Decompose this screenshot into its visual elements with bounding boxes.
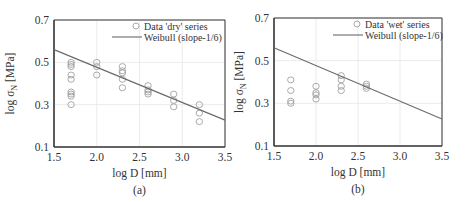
- chart-panel-a: 1.52.02.53.03.50.10.30.50.7log D [mm]log…: [0, 0, 233, 202]
- chart-panel-b: 1.52.02.53.03.50.10.30.50.7log D [mm]log…: [233, 0, 466, 202]
- x-tick-label: 3.0: [393, 150, 408, 162]
- legend-circle-icon: [354, 21, 360, 27]
- y-tick-label: 0.1: [35, 141, 50, 153]
- scatter-chart-dry: 1.52.02.53.03.50.10.30.50.7log D [mm]log…: [0, 0, 233, 202]
- x-tick-label: 3.0: [175, 151, 190, 163]
- y-tick-label: 0.5: [35, 56, 50, 68]
- legend-label-weibull: Weibull (slope-1/6): [365, 30, 443, 42]
- legend: Data 'wet' seriesWeibull (slope-1/6): [333, 19, 443, 42]
- x-tick-label: 2.0: [309, 150, 324, 162]
- y-tick-label: 0.3: [255, 97, 270, 109]
- x-tick-label: 2.5: [351, 150, 366, 162]
- x-tick-label: 1.5: [47, 151, 62, 163]
- panel-label: (b): [351, 183, 365, 196]
- data-point-circle: [338, 88, 344, 94]
- data-point-circle: [288, 77, 294, 83]
- legend-circle-icon: [133, 23, 139, 29]
- y-tick-label: 0.7: [255, 12, 270, 24]
- x-tick-label: 3.5: [435, 150, 450, 162]
- legend-label-data: Data 'dry' series: [144, 21, 208, 32]
- legend-label-data: Data 'wet' series: [365, 19, 430, 30]
- legend: Data 'dry' seriesWeibull (slope-1/6): [112, 21, 222, 44]
- y-axis-label: log σN [MPa]: [233, 51, 248, 113]
- legend-label-weibull: Weibull (slope-1/6): [144, 32, 222, 44]
- data-point-circle: [68, 76, 74, 82]
- data-point-circle: [119, 85, 125, 91]
- y-tick-label: 0.5: [255, 55, 270, 67]
- x-axis-label: log D [mm]: [112, 167, 166, 180]
- x-tick-label: 3.5: [218, 151, 233, 163]
- data-point-circle: [288, 88, 294, 94]
- x-tick-label: 2.0: [90, 151, 105, 163]
- panel-label: (a): [133, 184, 146, 197]
- data-point-circle: [196, 119, 202, 125]
- y-tick-label: 0.1: [255, 140, 270, 152]
- scatter-chart-wet: 1.52.02.53.03.50.10.30.50.7log D [mm]log…: [233, 0, 466, 202]
- data-point-circle: [171, 91, 177, 97]
- y-tick-label: 0.3: [35, 99, 50, 111]
- x-axis-label: log D [mm]: [331, 166, 385, 179]
- x-tick-label: 2.5: [132, 151, 147, 163]
- data-series: [288, 73, 370, 107]
- x-tick-label: 1.5: [267, 150, 282, 162]
- y-tick-label: 0.7: [35, 14, 50, 26]
- y-axis-label: log σN [MPa]: [4, 53, 19, 115]
